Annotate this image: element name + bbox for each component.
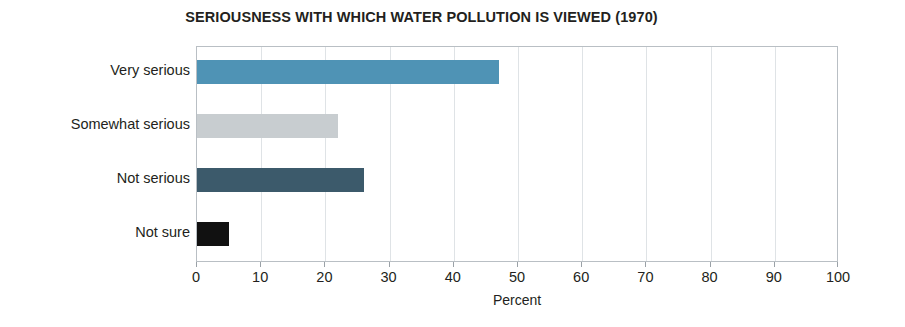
tick-label-90: 90 [766,269,782,285]
gridline-100 [838,47,839,261]
tick-label-10: 10 [252,269,268,285]
category-label: Not sure [4,224,190,240]
category-axis-labels: Very seriousSomewhat seriousNot seriousN… [0,46,190,262]
bar [197,60,499,84]
tick-mark-20 [324,262,325,267]
tick-mark-80 [710,262,711,267]
chart-figure: SERIOUSNESS WITH WHICH WATER POLLUTION I… [0,0,905,327]
plot-area [196,46,838,262]
category-label: Somewhat serious [4,116,190,132]
category-label: Very serious [4,62,190,78]
tick-mark-60 [581,262,582,267]
tick-label-40: 40 [445,269,461,285]
tick-label-80: 80 [702,269,718,285]
bars-layer [197,47,837,261]
tick-mark-0 [196,262,197,267]
chart-title: SERIOUSNESS WITH WHICH WATER POLLUTION I… [0,9,905,25]
tick-mark-50 [517,262,518,267]
tick-mark-100 [837,262,838,267]
tick-label-60: 60 [573,269,589,285]
bar [197,168,364,192]
tick-label-20: 20 [316,269,332,285]
tick-label-50: 50 [509,269,525,285]
tick-label-70: 70 [637,269,653,285]
x-axis-title: Percent [196,292,838,308]
tick-mark-40 [453,262,454,267]
bar [197,114,338,138]
tick-label-100: 100 [826,269,850,285]
value-axis-ticks: 0102030405060708090100 [196,262,838,268]
category-label: Not serious [4,170,190,186]
tick-mark-90 [774,262,775,267]
tick-label-30: 30 [381,269,397,285]
tick-mark-70 [645,262,646,267]
tick-label-0: 0 [192,269,200,285]
bar [197,222,229,246]
tick-mark-30 [389,262,390,267]
tick-mark-10 [260,262,261,267]
